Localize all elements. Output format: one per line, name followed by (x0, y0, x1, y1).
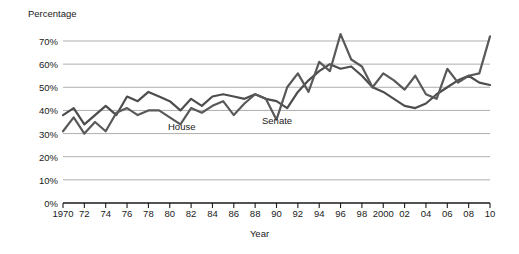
gridlines (63, 41, 490, 180)
series-label-senate: Senate (262, 115, 292, 126)
chart-figure: Percentage Year 0%10%20%30%40%50%60%70% … (0, 0, 519, 254)
series-label-house: House (168, 121, 195, 132)
plot-area (0, 0, 519, 254)
